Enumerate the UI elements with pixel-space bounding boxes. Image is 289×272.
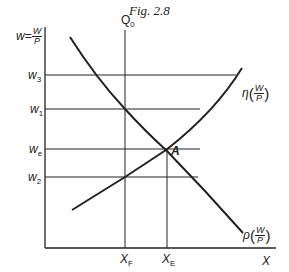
rho-curve [70, 37, 243, 233]
figure-2-8: Fig. 2.8 w=WP Q0 w3 w1 we w2 XF XE X A η… [0, 0, 289, 272]
eta-curve [72, 68, 242, 210]
y-axis-var: w [16, 29, 25, 43]
x-axis-label: X [262, 255, 270, 267]
y-axis-eq: = [25, 29, 32, 43]
y-axis-label: w=WP [16, 27, 42, 46]
figure-caption: Fig. 2.8 [129, 3, 170, 19]
eta-curve-label: η(WP) [242, 84, 269, 103]
q0-label: Q0 [121, 14, 135, 29]
w1-label: w1 [30, 103, 43, 118]
w3-label: w3 [28, 69, 41, 84]
y-axis-fraction: WP [32, 27, 43, 46]
xe-label: XE [162, 253, 175, 268]
rho-curve-label: ρ(WP) [243, 226, 270, 245]
intersection-a-label: A [171, 145, 180, 157]
xf-label: XF [120, 253, 133, 268]
we-label: we [29, 143, 42, 158]
w2-label: w2 [28, 171, 41, 186]
